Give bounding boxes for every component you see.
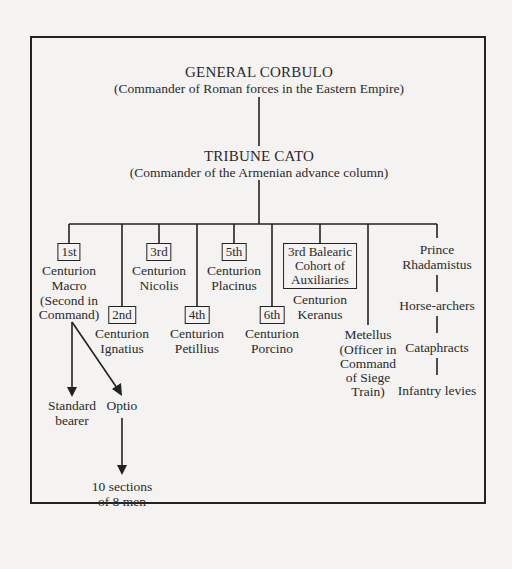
tribune-cato-subtitle: (Commander of the Armenian advance colum… xyxy=(130,165,388,180)
auxiliaries-box-line2: Cohort of xyxy=(288,259,352,273)
century-3-line1: Centurion xyxy=(132,263,186,278)
century-5-line2: Placinus xyxy=(211,278,257,293)
sections-line1: 10 sections xyxy=(92,479,152,494)
auxiliaries-box-line1: 3rd Balearic xyxy=(288,245,352,259)
century-5-line1: Centurion xyxy=(207,263,261,278)
auxiliaries-line2: Keranus xyxy=(298,307,343,322)
metellus-line3: of Siege xyxy=(346,370,391,385)
rank-box-6th: 6th xyxy=(260,306,285,324)
auxiliaries-line1: Centurion xyxy=(293,292,347,307)
sections-line2: of 8 men xyxy=(98,494,146,509)
century-3-line2: Nicolis xyxy=(140,278,179,293)
century-1-line2: Macro xyxy=(51,278,86,293)
auxiliaries-box: 3rd Balearic Cohort of Auxiliaries xyxy=(283,243,357,289)
standard-bearer-line1: Standard xyxy=(48,398,96,413)
rank-box-5th: 5th xyxy=(222,243,247,261)
century-4-line2: Petillius xyxy=(175,341,219,356)
optio-label: Optio xyxy=(107,398,138,413)
prince-unit-horse-archers: Horse-archers xyxy=(399,298,475,313)
prince-unit-cataphracts: Cataphracts xyxy=(405,340,469,355)
metellus-line1: (Officer in xyxy=(339,342,396,357)
century-4-line1: Centurion xyxy=(170,326,224,341)
standard-bearer-line2: bearer xyxy=(55,413,89,428)
auxiliaries-box-line3: Auxiliaries xyxy=(288,273,352,287)
century-1-line3: (Second in xyxy=(40,293,98,308)
prince-line1: Prince xyxy=(420,242,455,257)
century-2-line2: Ignatius xyxy=(100,341,144,356)
rank-box-1st: 1st xyxy=(57,243,80,261)
rank-box-2nd: 2nd xyxy=(108,306,136,324)
rank-box-4th: 4th xyxy=(185,306,210,324)
century-1-line4: Command) xyxy=(39,307,100,322)
general-corbulo-title: GENERAL CORBULO xyxy=(185,64,333,81)
metellus-name: Metellus xyxy=(344,327,391,342)
century-2-line1: Centurion xyxy=(95,326,149,341)
metellus-line4: Train) xyxy=(351,384,384,399)
metellus-line2: Command xyxy=(340,356,396,371)
tribune-cato-title: TRIBUNE CATO xyxy=(204,148,314,165)
century-6-line2: Porcino xyxy=(251,341,293,356)
prince-unit-infantry-levies: Infantry levies xyxy=(398,383,476,398)
century-1-line1: Centurion xyxy=(42,263,96,278)
prince-line2: Rhadamistus xyxy=(402,257,472,272)
century-6-line1: Centurion xyxy=(245,326,299,341)
rank-box-3rd: 3rd xyxy=(146,243,171,261)
general-corbulo-subtitle: (Commander of Roman forces in the Easter… xyxy=(114,81,404,96)
